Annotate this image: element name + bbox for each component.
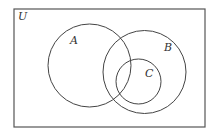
- set-b-label: B: [163, 41, 172, 54]
- set-c-circle: [116, 59, 161, 104]
- universe-rectangle: [14, 9, 205, 127]
- set-c-label: C: [145, 67, 154, 80]
- venn-diagram: U A B C: [0, 0, 216, 133]
- set-a-circle: [48, 24, 131, 107]
- set-a-label: A: [69, 34, 78, 47]
- universe-label: U: [18, 10, 28, 23]
